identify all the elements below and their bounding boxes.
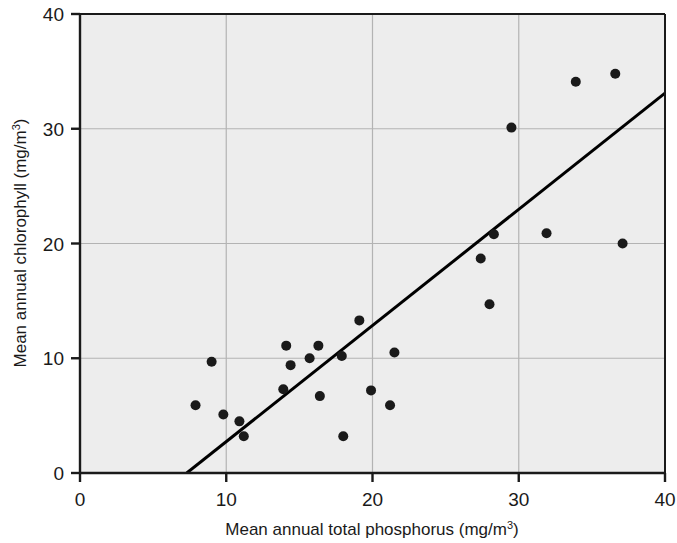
data-point [485,299,495,309]
data-point [207,357,217,367]
data-point [305,353,315,363]
x-tick-label: 40 [654,489,675,510]
data-point [571,77,581,87]
x-tick-label: 20 [362,489,383,510]
data-point [338,431,348,441]
data-point [313,341,323,351]
x-tick-label: 0 [75,489,86,510]
data-point [476,253,486,263]
y-tick-label: 40 [43,4,64,25]
y-tick-label: 30 [43,119,64,140]
data-point [366,385,376,395]
y-tick-label: 10 [43,348,64,369]
data-point [385,400,395,410]
data-point [278,384,288,394]
x-tick-label: 10 [216,489,237,510]
data-point [506,123,516,133]
y-tick-label: 20 [43,234,64,255]
data-point [618,239,628,249]
data-point [354,315,364,325]
y-axis-title: Mean annual chlorophyll (mg/m3) [10,119,30,368]
x-axis-title: Mean annual total phosphorus (mg/m3) [225,519,518,539]
data-point [281,341,291,351]
data-point [239,431,249,441]
data-point [191,400,201,410]
data-point [286,360,296,370]
y-axis-ticks: 010203040 [43,4,80,484]
y-tick-label: 0 [53,463,64,484]
x-axis-ticks: 010203040 [75,473,676,510]
data-point [542,228,552,238]
data-point [389,348,399,358]
x-tick-label: 30 [508,489,529,510]
data-point [489,229,499,239]
chart-canvas: 010203040 010203040 Mean annual total ph… [0,0,677,543]
data-point [234,416,244,426]
scatter-plot-figure: 010203040 010203040 Mean annual total ph… [0,0,677,543]
data-point [337,351,347,361]
data-point [610,69,620,79]
data-point [315,391,325,401]
data-point [218,409,228,419]
